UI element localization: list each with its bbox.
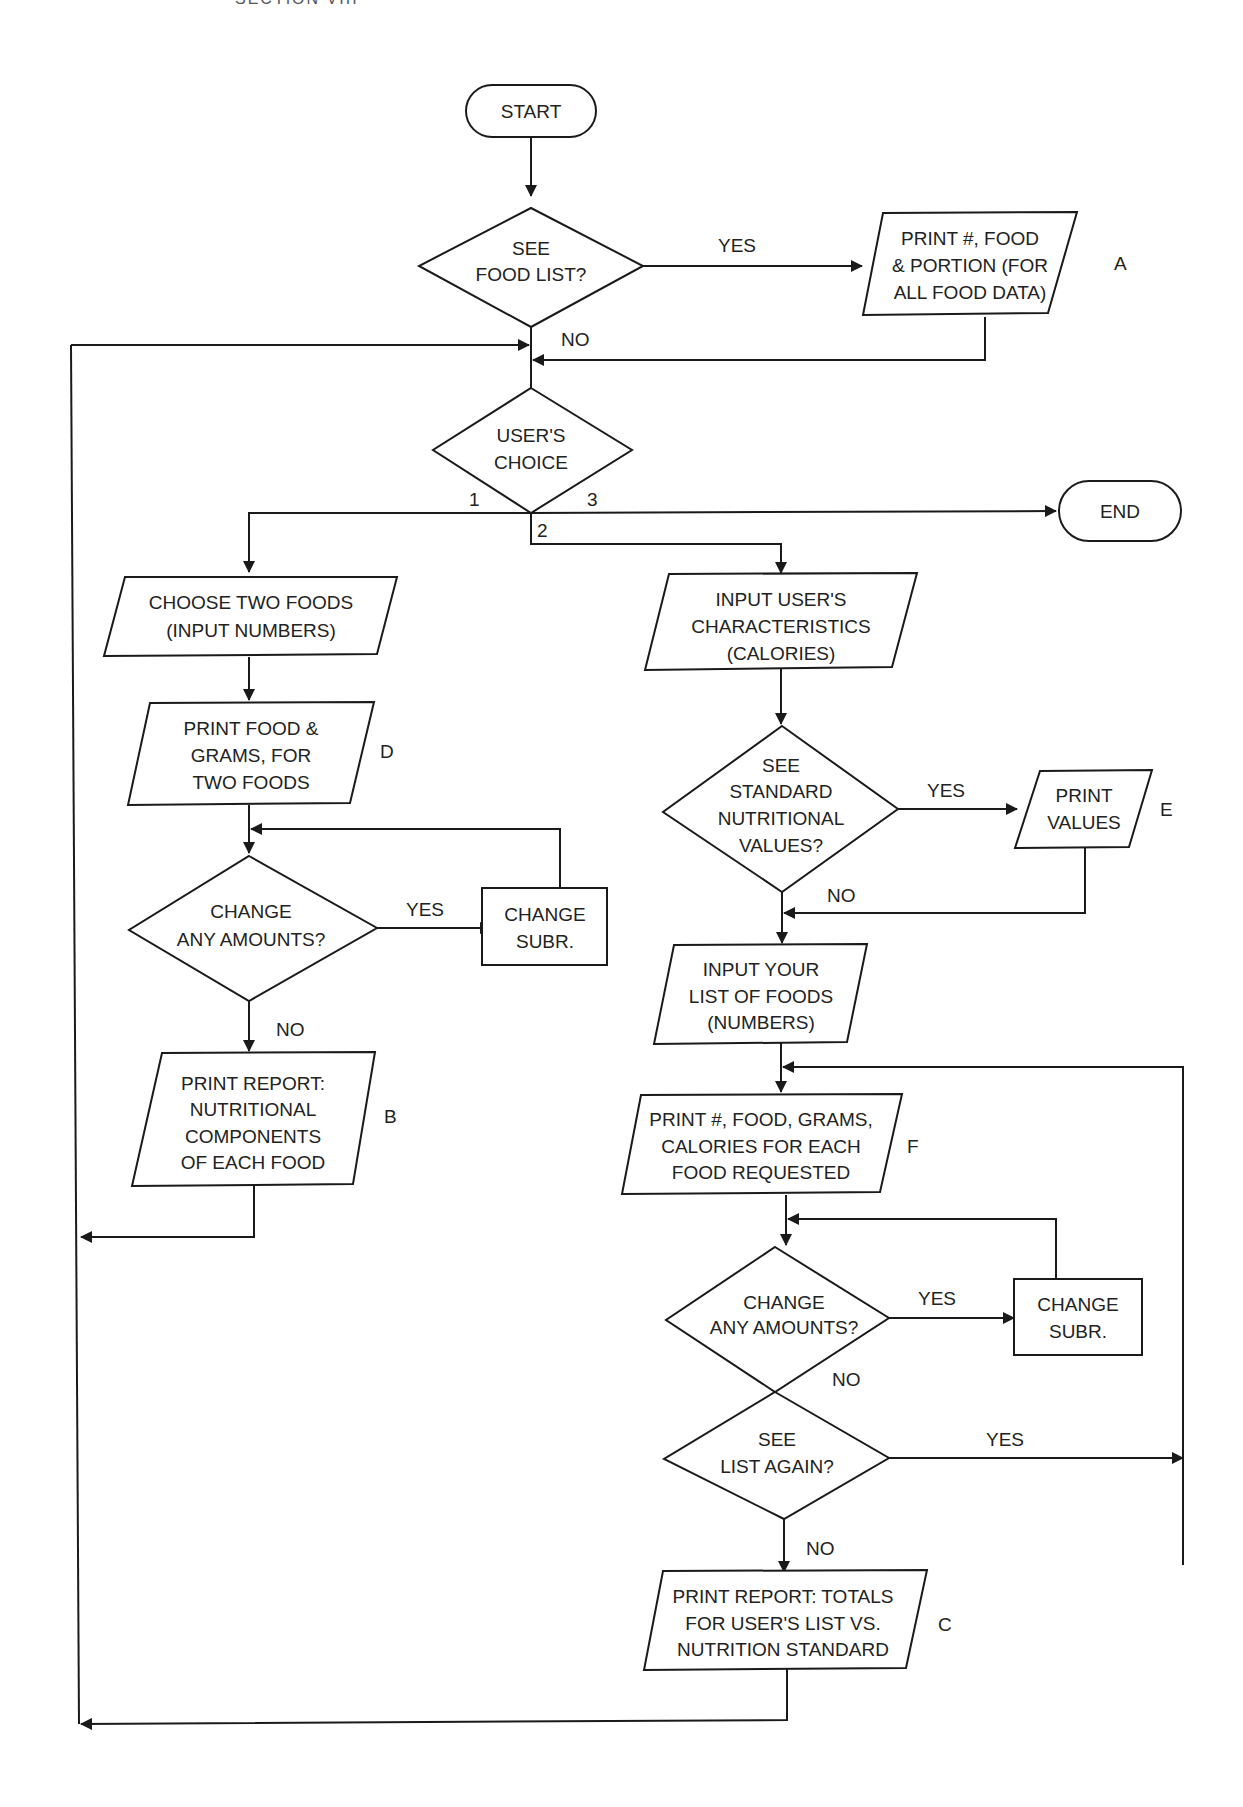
svg-text:OF EACH FOOD: OF EACH FOOD [181,1152,326,1173]
svg-text:START: START [501,101,562,122]
node-tag-a: A [1114,253,1127,274]
svg-text:CHANGE: CHANGE [210,901,291,922]
svg-text:ANY AMOUNTS?: ANY AMOUNTS? [710,1317,859,1338]
see-food-list-decision: SEE FOOD LIST? [419,208,643,327]
svg-text:(CALORIES): (CALORIES) [727,643,836,664]
edge-b-return [81,1184,254,1237]
edge-a-return [533,317,985,360]
change-subroutine-1: CHANGE SUBR. [482,888,607,965]
svg-text:LIST AGAIN?: LIST AGAIN? [720,1456,834,1477]
node-tag-b: B [384,1106,397,1127]
svg-text:PRINT REPORT: TOTALS: PRINT REPORT: TOTALS [672,1586,893,1607]
svg-text:SUBR.: SUBR. [516,931,574,952]
svg-text:SUBR.: SUBR. [1049,1321,1107,1342]
svg-text:NUTRITIONAL: NUTRITIONAL [718,808,845,829]
svg-text:ANY AMOUNTS?: ANY AMOUNTS? [177,929,326,950]
svg-text:SEE: SEE [512,238,550,259]
edge-label-choice-3: 3 [587,489,598,510]
edge-choice-1 [249,513,531,572]
svg-text:FOOD REQUESTED: FOOD REQUESTED [672,1162,850,1183]
end-terminal: END [1059,481,1181,541]
edge-subr1-return [251,829,560,887]
flowchart: SECTION VIII [0,0,1243,1807]
edge-label-yes: YES [986,1429,1024,1450]
svg-text:FOOD LIST?: FOOD LIST? [476,264,587,285]
svg-text:INPUT USER'S: INPUT USER'S [715,589,846,610]
svg-text:(NUMBERS): (NUMBERS) [707,1012,815,1033]
users-choice-decision: USER'S CHOICE [433,388,632,513]
edge-label-no: NO [806,1538,835,1559]
edge-label-no: NO [276,1019,305,1040]
svg-text:LIST OF FOODS: LIST OF FOODS [689,986,833,1007]
svg-text:NUTRITIONAL: NUTRITIONAL [190,1099,317,1120]
start-terminal: START [466,85,596,137]
svg-text:VALUES?: VALUES? [739,835,823,856]
print-values-io: PRINT VALUES [1015,770,1152,848]
svg-text:PRINT #, FOOD: PRINT #, FOOD [901,228,1039,249]
svg-text:COMPONENTS: COMPONENTS [185,1126,321,1147]
svg-text:& PORTION (FOR: & PORTION (FOR [892,255,1048,276]
edge-subr2-return [788,1219,1056,1278]
edge-label-yes: YES [927,780,965,801]
input-user-characteristics-io: INPUT USER'S CHARACTERISTICS (CALORIES) [645,573,917,670]
edge-label-yes: YES [406,899,444,920]
svg-text:CHANGE: CHANGE [1037,1294,1118,1315]
svg-text:NUTRITION STANDARD: NUTRITION STANDARD [677,1639,889,1660]
node-tag-f: F [907,1136,919,1157]
node-tag-c: C [938,1614,952,1635]
print-food-calories-io: PRINT #, FOOD, GRAMS, CALORIES FOR EACH … [622,1094,902,1194]
svg-text:PRINT REPORT:: PRINT REPORT: [181,1073,325,1094]
page-header: SECTION VIII [235,0,359,7]
svg-text:PRINT FOOD &: PRINT FOOD & [184,718,319,739]
edge-label-choice-2: 2 [537,520,548,541]
svg-text:TWO FOODS: TWO FOODS [192,772,309,793]
svg-text:CHANGE: CHANGE [743,1292,824,1313]
node-tag-d: D [380,741,394,762]
svg-text:STANDARD: STANDARD [729,781,832,802]
svg-text:CHOOSE TWO FOODS: CHOOSE TWO FOODS [149,592,353,613]
svg-text:PRINT: PRINT [1056,785,1113,806]
svg-text:CALORIES FOR EACH: CALORIES FOR EACH [661,1136,861,1157]
svg-text:CHANGE: CHANGE [504,904,585,925]
svg-text:CHOICE: CHOICE [494,452,568,473]
svg-text:(INPUT NUMBERS): (INPUT NUMBERS) [166,620,336,641]
edge-label-yes: YES [918,1288,956,1309]
svg-text:ALL FOOD DATA): ALL FOOD DATA) [894,282,1047,303]
print-all-food-data-io: PRINT #, FOOD & PORTION (FOR ALL FOOD DA… [863,212,1077,315]
edge-c-return [81,1669,787,1724]
change-amounts-decision-1: CHANGE ANY AMOUNTS? [129,856,377,1001]
edge-choice-3 [531,511,1056,513]
svg-text:VALUES: VALUES [1047,812,1121,833]
input-food-list-io: INPUT YOUR LIST OF FOODS (NUMBERS) [654,944,867,1044]
edge-left-loop-vertical [71,345,79,1724]
edge-label-no: NO [832,1369,861,1390]
edge-label-yes: YES [718,235,756,256]
edge-label-no: NO [827,885,856,906]
edge-label-choice-1: 1 [469,489,480,510]
svg-text:SEE: SEE [762,755,800,776]
edge-choice-2 [531,513,781,573]
print-report-nutritional-io: PRINT REPORT: NUTRITIONAL COMPONENTS OF … [132,1052,375,1186]
svg-text:PRINT #, FOOD, GRAMS,: PRINT #, FOOD, GRAMS, [649,1109,872,1130]
svg-text:SEE: SEE [758,1429,796,1450]
svg-text:INPUT YOUR: INPUT YOUR [703,959,820,980]
see-list-again-decision: SEE LIST AGAIN? [664,1392,889,1519]
choose-two-foods-io: CHOOSE TWO FOODS (INPUT NUMBERS) [104,577,397,656]
svg-text:GRAMS, FOR: GRAMS, FOR [191,745,311,766]
print-report-totals-io: PRINT REPORT: TOTALS FOR USER'S LIST VS.… [644,1570,927,1670]
svg-text:FOR USER'S LIST VS.: FOR USER'S LIST VS. [685,1613,880,1634]
print-food-grams-io: PRINT FOOD & GRAMS, FOR TWO FOODS [128,702,374,805]
svg-text:CHARACTERISTICS: CHARACTERISTICS [691,616,870,637]
svg-text:END: END [1100,501,1140,522]
node-tag-e: E [1160,799,1173,820]
change-subroutine-2: CHANGE SUBR. [1014,1279,1142,1355]
see-standard-values-decision: SEE STANDARD NUTRITIONAL VALUES? [663,726,898,892]
svg-text:USER'S: USER'S [496,425,565,446]
edge-label-no: NO [561,329,590,350]
